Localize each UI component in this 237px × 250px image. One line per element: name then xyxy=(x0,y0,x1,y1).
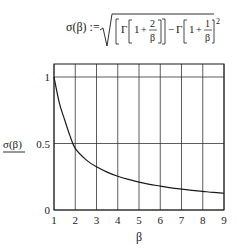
plus-1: + xyxy=(141,24,147,35)
gamma-symbol-2: Γ xyxy=(176,23,182,35)
x-tick-label: 4 xyxy=(115,214,121,226)
chart: 123456789 00.51 β σ(β) xyxy=(0,52,237,250)
minus-sign: − xyxy=(168,23,174,35)
numerator-1: 1 xyxy=(205,18,210,29)
inner-bracket-right-1 xyxy=(158,20,161,43)
inner-bracket-left-2 xyxy=(184,20,187,43)
inner-bracket-right-2 xyxy=(212,20,214,43)
one-2: 1 xyxy=(189,23,195,35)
y-tick-label: 0 xyxy=(45,204,51,216)
inner-bracket-left-1 xyxy=(129,20,132,43)
formula-definition: σ(β) := Γ 1 + 2 β − Γ 1 + 1 β 2 xyxy=(0,0,237,52)
y-tick-label: 1 xyxy=(45,71,51,83)
x-tick-label: 5 xyxy=(136,214,142,226)
denominator-beta-2: β xyxy=(205,32,210,43)
plus-2: + xyxy=(196,24,202,35)
x-tick-label: 8 xyxy=(200,214,206,226)
y-tick-label: 0.5 xyxy=(36,138,50,150)
outer-bracket-right xyxy=(162,19,165,44)
formula-lhs: σ(β) := xyxy=(66,20,100,34)
x-tick-labels: 123456789 xyxy=(51,214,227,226)
denominator-beta-1: β xyxy=(150,32,155,43)
grid-lines xyxy=(54,64,224,210)
x-tick-label: 7 xyxy=(179,214,185,226)
gamma-symbol-1: Γ xyxy=(121,23,127,35)
exponent-2: 2 xyxy=(216,17,220,26)
x-tick-label: 9 xyxy=(221,214,227,226)
y-tick-labels: 00.51 xyxy=(36,71,50,216)
numerator-2: 2 xyxy=(150,18,155,29)
x-axis-label: β xyxy=(136,230,142,244)
x-tick-label: 2 xyxy=(73,214,79,226)
x-tick-label: 1 xyxy=(51,214,57,226)
y-axis-label: σ(β) xyxy=(3,138,22,151)
x-tick-label: 6 xyxy=(158,214,164,226)
one-1: 1 xyxy=(134,23,140,35)
outer-bracket-left xyxy=(116,19,119,44)
x-tick-label: 3 xyxy=(94,214,100,226)
